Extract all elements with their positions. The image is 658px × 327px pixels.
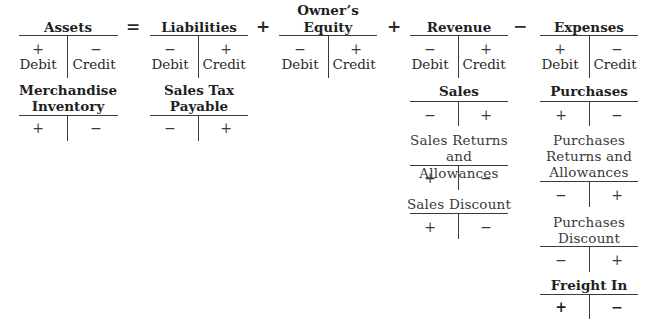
right-sign: + (593, 253, 641, 267)
account-title: Sales Discount (406, 196, 512, 213)
account-title: Expenses (540, 19, 638, 36)
account-title: Liabilities (150, 19, 248, 36)
credit-label: Credit (330, 57, 378, 72)
account-title: Freight In (540, 277, 638, 294)
account-title: Assets (19, 19, 117, 36)
t-account-divider (589, 181, 590, 207)
t-account-top-line (19, 115, 118, 116)
debit-label: Debit (536, 57, 584, 72)
right-sign: + (202, 42, 250, 56)
account-title-line3: Allowances (536, 164, 642, 181)
left-sign: + (537, 108, 585, 122)
t-account-divider (589, 246, 590, 272)
t-account-top-line (19, 35, 118, 36)
right-sign: + (462, 42, 510, 56)
account-title-line2: Inventory (19, 98, 117, 115)
account-title-line2: Returns and (536, 148, 642, 165)
debit-label: Debit (14, 57, 62, 72)
left-sign: − (146, 121, 194, 135)
t-account-divider (67, 35, 68, 78)
plus-operator: + (255, 18, 271, 35)
t-account-divider (67, 115, 68, 141)
account-title-line1: Merchandise (19, 82, 117, 99)
equals-operator: = (125, 18, 141, 35)
left-sign: − (146, 42, 194, 56)
account-title: Sales (410, 83, 508, 100)
account-title-line2: Equity (279, 19, 377, 36)
left-sign: + (537, 300, 585, 314)
right-sign: − (462, 220, 510, 234)
left-sign: − (276, 42, 324, 56)
account-title-line2: Payable (150, 98, 248, 115)
account-title-line1: Purchases (536, 214, 642, 231)
right-sign: + (462, 108, 510, 122)
credit-label: Credit (70, 57, 118, 72)
credit-label: Credit (591, 57, 639, 72)
left-sign: − (406, 42, 454, 56)
t-account-divider (198, 115, 199, 141)
right-sign: − (593, 108, 641, 122)
right-sign: − (462, 171, 510, 185)
t-account-divider (589, 294, 590, 319)
right-sign: + (593, 188, 641, 202)
t-account-divider (458, 165, 459, 190)
right-sign: − (72, 121, 120, 135)
debit-label: Debit (276, 57, 324, 72)
left-sign: + (406, 171, 454, 185)
left-sign: − (537, 253, 585, 267)
t-account-divider (589, 101, 590, 126)
t-account-divider (458, 101, 459, 126)
account-title-line1: Purchases (536, 132, 642, 149)
account-title-line1: Sales Returns (406, 132, 512, 149)
right-sign: − (72, 42, 120, 56)
plus-operator: + (386, 18, 402, 35)
account-title-line1: Owner’s (279, 2, 377, 19)
t-account-divider (458, 213, 459, 239)
left-sign: − (406, 108, 454, 122)
left-sign: + (406, 220, 454, 234)
credit-label: Credit (200, 57, 248, 72)
account-title-line1: Sales Tax (150, 82, 248, 99)
account-title: Purchases (540, 83, 638, 100)
debit-label: Debit (146, 57, 194, 72)
right-sign: + (202, 121, 250, 135)
right-sign: + (332, 42, 380, 56)
account-title-line2: Discount (536, 230, 642, 247)
right-sign: − (593, 42, 641, 56)
left-sign: + (14, 121, 62, 135)
right-sign: − (593, 300, 641, 314)
account-title: Revenue (410, 19, 508, 36)
left-sign: + (536, 42, 584, 56)
debit-label: Debit (406, 57, 454, 72)
left-sign: − (537, 188, 585, 202)
credit-label: Credit (460, 57, 508, 72)
minus-operator: − (512, 18, 528, 35)
left-sign: + (14, 42, 62, 56)
